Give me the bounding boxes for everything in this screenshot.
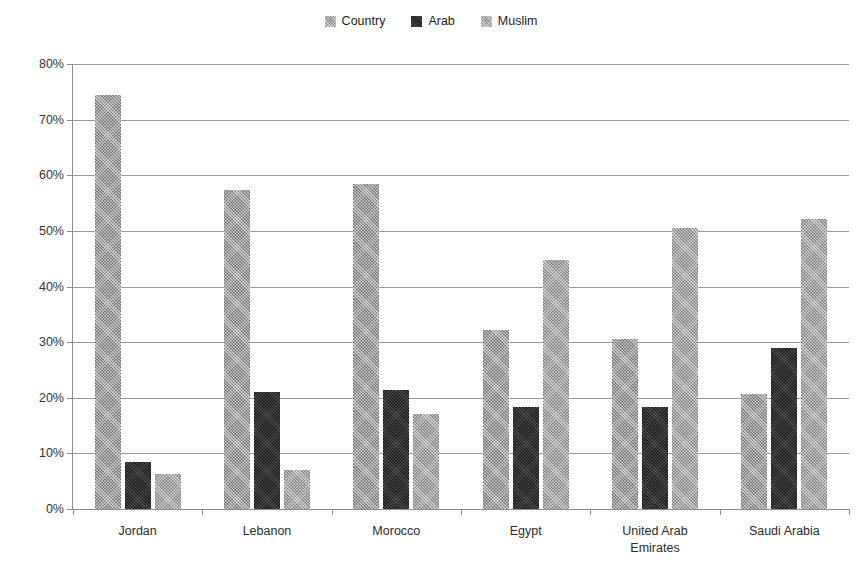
plot-area: 0%10%20%30%40%50%60%70%80%JordanLebanonM… <box>72 64 848 509</box>
bar-arab-morocco[interactable] <box>383 390 409 509</box>
bar-arab-saudi-arabia[interactable] <box>771 348 797 509</box>
y-axis-tick <box>67 453 73 454</box>
bar-country-egypt[interactable] <box>483 330 509 509</box>
gridline <box>73 453 849 454</box>
x-axis-category-label: Egypt <box>466 523 586 540</box>
y-axis-tick-label: 60% <box>39 168 64 182</box>
y-axis-tick <box>67 287 73 288</box>
legend-label: Arab <box>428 14 454 28</box>
x-axis-tick <box>73 509 74 515</box>
hatched-gray-swatch <box>325 16 336 27</box>
bar-country-lebanon[interactable] <box>224 190 250 509</box>
y-axis-tick <box>67 398 73 399</box>
x-axis-category-label: Lebanon <box>207 523 327 540</box>
chart-legend: CountryArabMuslim <box>0 14 862 28</box>
x-axis-tick <box>849 509 850 515</box>
legend-label: Muslim <box>498 14 538 28</box>
bar-group <box>95 64 181 509</box>
bar-arab-jordan[interactable] <box>125 462 151 509</box>
bar-country-morocco[interactable] <box>353 184 379 509</box>
gridline <box>73 342 849 343</box>
chart-container: CountryArabMuslim 0%10%20%30%40%50%60%70… <box>0 0 862 570</box>
y-axis-tick-label: 70% <box>39 113 64 127</box>
x-axis-tick <box>720 509 721 515</box>
bar-arab-lebanon[interactable] <box>254 392 280 509</box>
y-axis-tick-label: 80% <box>39 57 64 71</box>
bar-group <box>353 64 439 509</box>
x-axis-tick <box>590 509 591 515</box>
bar-group <box>612 64 698 509</box>
y-axis-tick-label: 30% <box>39 335 64 349</box>
bar-muslim-united-arab-emirates[interactable] <box>672 228 698 509</box>
gridline <box>73 231 849 232</box>
x-axis-category-label: Jordan <box>78 523 198 540</box>
bar-group <box>741 64 827 509</box>
x-axis-category-label: Morocco <box>336 523 456 540</box>
legend-entry-country[interactable]: Country <box>325 14 386 28</box>
y-axis-tick <box>67 231 73 232</box>
x-axis-tick <box>202 509 203 515</box>
gridline <box>73 287 849 288</box>
y-axis-tick <box>67 342 73 343</box>
hatched-gray-swatch <box>481 16 492 27</box>
bar-country-united-arab-emirates[interactable] <box>612 339 638 509</box>
y-axis-tick-label: 0% <box>46 502 64 516</box>
bar-muslim-lebanon[interactable] <box>284 470 310 509</box>
gridline <box>73 64 849 65</box>
y-axis-tick <box>67 120 73 121</box>
y-axis-tick-label: 40% <box>39 280 64 294</box>
gridline <box>73 120 849 121</box>
bar-country-jordan[interactable] <box>95 95 121 509</box>
gridline <box>73 175 849 176</box>
y-axis-tick <box>67 64 73 65</box>
bar-country-saudi-arabia[interactable] <box>741 394 767 509</box>
bar-arab-united-arab-emirates[interactable] <box>642 407 668 509</box>
bar-arab-egypt[interactable] <box>513 407 539 509</box>
x-axis-tick <box>461 509 462 515</box>
bar-muslim-morocco[interactable] <box>413 414 439 509</box>
y-axis-tick <box>67 175 73 176</box>
x-axis-category-label: United Arab Emirates <box>595 523 715 557</box>
x-axis-category-label: Saudi Arabia <box>724 523 844 540</box>
legend-label: Country <box>342 14 386 28</box>
y-axis-tick-label: 20% <box>39 391 64 405</box>
legend-entry-muslim[interactable]: Muslim <box>481 14 538 28</box>
bar-group <box>224 64 310 509</box>
x-axis-tick <box>332 509 333 515</box>
gridline <box>73 398 849 399</box>
y-axis-tick-label: 10% <box>39 446 64 460</box>
bar-muslim-saudi-arabia[interactable] <box>801 219 827 509</box>
bar-muslim-egypt[interactable] <box>543 260 569 509</box>
bar-group <box>483 64 569 509</box>
y-axis-tick-label: 50% <box>39 224 64 238</box>
solid-black-swatch <box>411 16 422 27</box>
bar-muslim-jordan[interactable] <box>155 474 181 509</box>
legend-entry-arab[interactable]: Arab <box>411 14 454 28</box>
